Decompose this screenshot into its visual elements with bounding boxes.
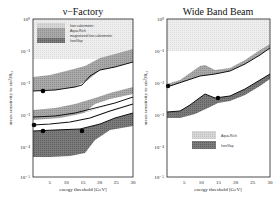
svg-text:10⁻⁴: 10⁻⁴ xyxy=(20,145,30,150)
svg-text:10⁻¹: 10⁻¹ xyxy=(155,49,165,54)
legend-swatch xyxy=(37,28,65,33)
marker xyxy=(80,129,85,134)
legend-swatch xyxy=(37,38,65,43)
left-title: ν−Factory xyxy=(63,6,104,17)
excluded-region xyxy=(167,19,270,51)
svg-text:10: 10 xyxy=(64,180,70,185)
left-y-label: mean sensitivity to sin²2θ₁₃ xyxy=(8,70,13,125)
legend-swatch xyxy=(192,131,216,139)
svg-text:10⁻³: 10⁻³ xyxy=(21,113,31,118)
svg-text:20: 20 xyxy=(97,180,103,185)
right-y-axis: 10⁰ 10⁻¹ 10⁻² 10⁻³ 10⁻⁴ 10⁻⁵ xyxy=(154,17,164,180)
svg-text:10⁻¹: 10⁻¹ xyxy=(21,49,31,54)
svg-text:5: 5 xyxy=(183,180,186,185)
svg-text:10⁻⁴: 10⁻⁴ xyxy=(154,145,164,150)
left-panel: ν−Factory Iron calorimeter Aqua-Rich xyxy=(8,6,136,192)
svg-text:25: 25 xyxy=(250,180,256,185)
left-x-label: energy threshold [GeV] xyxy=(59,187,107,192)
marker xyxy=(41,89,46,94)
right-panel: Wide Band Beam Aqua-Rich Iron/Vap 10⁰ 10… xyxy=(143,6,273,192)
svg-text:25: 25 xyxy=(114,180,120,185)
svg-text:10: 10 xyxy=(199,180,205,185)
left-x-axis: 5 10 15 20 25 30 xyxy=(48,180,136,185)
legend-label: Iron/Vap xyxy=(70,39,83,43)
svg-text:15: 15 xyxy=(81,180,87,185)
svg-text:5: 5 xyxy=(48,180,51,185)
svg-text:10⁰: 10⁰ xyxy=(23,17,30,22)
svg-text:10⁻⁵: 10⁻⁵ xyxy=(20,175,30,180)
figure: ν−Factory Iron calorimeter Aqua-Rich xyxy=(0,0,278,203)
legend-label: Iron calorimeter xyxy=(70,24,94,28)
legend-swatch xyxy=(37,33,65,38)
svg-text:10⁻³: 10⁻³ xyxy=(155,113,165,118)
svg-text:20: 20 xyxy=(233,180,239,185)
legend-swatch xyxy=(37,23,65,28)
svg-text:15: 15 xyxy=(216,180,222,185)
right-x-label: energy threshold [GeV] xyxy=(194,187,242,192)
aqua-rich-band xyxy=(33,87,133,120)
marker xyxy=(166,84,170,88)
legend-swatch xyxy=(192,141,216,149)
marker xyxy=(216,96,220,100)
svg-text:30: 30 xyxy=(131,180,137,185)
right-x-axis: 5 10 15 20 25 30 xyxy=(183,180,273,185)
right-legend: Aqua-Rich Iron/Vap xyxy=(192,131,237,149)
svg-text:10⁻²: 10⁻² xyxy=(155,81,165,86)
svg-text:10⁰: 10⁰ xyxy=(157,17,164,22)
svg-text:30: 30 xyxy=(268,180,274,185)
legend-label: Aqua-Rich xyxy=(221,134,237,138)
svg-text:10⁻²: 10⁻² xyxy=(21,81,31,86)
left-y-axis: 10⁰ 10⁻¹ 10⁻² 10⁻³ 10⁻⁴ 10⁻⁵ xyxy=(20,17,30,180)
legend-label: magnetized Iron calorimeter xyxy=(70,34,113,38)
legend-label: Iron/Vap xyxy=(221,144,234,148)
legend-label: Aqua-Rich xyxy=(70,29,86,33)
right-title: Wide Band Beam xyxy=(183,6,254,17)
marker xyxy=(41,129,46,134)
marker xyxy=(32,123,37,128)
right-y-label: mean sensitivity to sin²2θ₁₃ xyxy=(143,70,148,125)
svg-text:10⁻⁵: 10⁻⁵ xyxy=(154,175,164,180)
